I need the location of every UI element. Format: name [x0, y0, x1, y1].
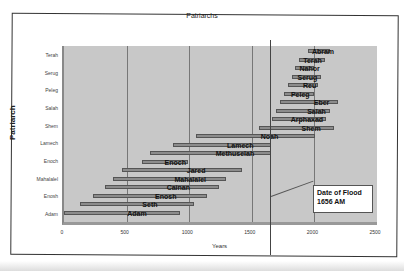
x-tick-label: 2000 — [307, 229, 318, 235]
y-tick-label: Mahalalel — [37, 176, 58, 182]
bar-label: Methuselah — [216, 150, 255, 157]
bar-label: Adam — [127, 210, 146, 217]
bar-label: Eber — [314, 99, 330, 106]
page-shadow — [0, 261, 404, 271]
y-tick-label: Enosh — [44, 193, 58, 199]
y-tick-label: Lamech — [40, 140, 58, 146]
bar-label: Enoch — [165, 159, 186, 166]
bar-label: Salah — [307, 108, 326, 115]
bar-label: Enosh — [155, 193, 176, 200]
y-tick-label: Salah — [45, 105, 58, 111]
annotation-line-1: Date of Flood — [317, 188, 369, 197]
bar-label: Mahalalel — [174, 176, 206, 183]
bar-cainan — [105, 185, 219, 189]
bar-lamech — [173, 143, 270, 147]
x-tick-label: 1000 — [182, 229, 193, 235]
bar-seth — [80, 202, 194, 206]
x-tick-label: 2500 — [369, 229, 380, 235]
bar-label: Seth — [142, 201, 157, 208]
x-tick-label: 500 — [120, 229, 128, 235]
y-tick-label: Enoch — [44, 158, 58, 164]
chart-title: Patriarchs — [0, 12, 404, 19]
bar-label: Jared — [187, 167, 206, 174]
bar-enosh — [93, 194, 206, 198]
bar-label: Arphaxad — [291, 116, 323, 123]
bar-label: Peleg — [291, 91, 310, 98]
y-tick-label: Peleg — [45, 87, 58, 93]
x-tick-label: 0 — [61, 229, 64, 235]
bar-label: Serug — [298, 74, 318, 81]
bar-jared — [122, 168, 242, 172]
bar-label: Terah — [303, 57, 322, 64]
y-tick-label: Adam — [45, 211, 58, 217]
annotation-line-2: 1656 AM — [317, 197, 369, 206]
flood-line — [270, 40, 271, 255]
x-axis-label: Years — [212, 243, 227, 249]
x-tick-label: 1500 — [244, 229, 255, 235]
bar-label: Shem — [302, 125, 321, 132]
y-axis-label: Patriarch — [8, 105, 17, 140]
bar-label: Lamech — [227, 142, 253, 149]
y-tick-label: Shem — [45, 123, 58, 129]
flood-annotation: Date of Flood 1656 AM — [313, 185, 373, 213]
bar-label: Cainan — [167, 184, 190, 191]
bar-mahalalel — [113, 177, 225, 181]
bar-adam — [64, 211, 180, 215]
y-tick-label: Serug — [45, 70, 58, 76]
bar-noah — [196, 134, 315, 138]
bar-label: Reu — [303, 82, 316, 89]
bar-label: Abram — [312, 48, 334, 55]
bar-label: Nahor — [299, 65, 319, 72]
y-tick-label: Terah — [45, 52, 58, 58]
